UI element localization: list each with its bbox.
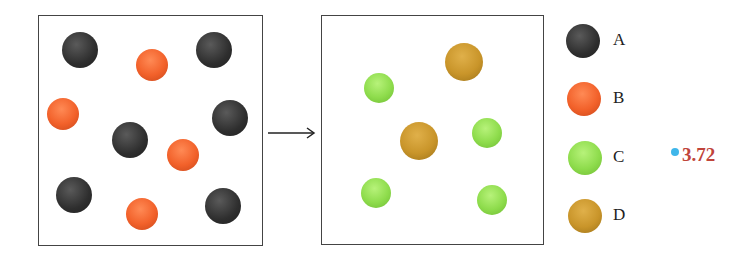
molecule-b [167, 139, 199, 171]
legend-swatch-b [567, 82, 601, 116]
molecule-a [212, 100, 248, 136]
legend-label-b: B [613, 88, 624, 108]
molecule-d [445, 43, 483, 81]
molecule-c [361, 178, 391, 208]
molecule-d [400, 122, 438, 160]
molecule-a [196, 32, 232, 68]
legend-label-a: A [613, 30, 625, 50]
molecule-a [205, 188, 241, 224]
legend-swatch-c [568, 141, 602, 175]
reaction-arrow-icon [268, 127, 316, 139]
molecule-c [472, 118, 502, 148]
molecule-c [364, 73, 394, 103]
molecule-a [112, 122, 148, 158]
legend-label-c: C [613, 147, 624, 167]
molecule-b [126, 198, 158, 230]
molecule-b [47, 98, 79, 130]
molecule-b [136, 49, 168, 81]
legend-label-d: D [613, 205, 625, 225]
legend-swatch-d [568, 199, 602, 233]
marker-dot-icon [671, 148, 679, 156]
molecule-a [56, 177, 92, 213]
molecule-a [62, 32, 98, 68]
legend-swatch-a [566, 24, 600, 58]
molecule-c [477, 185, 507, 215]
annotation-value: 3.72 [682, 144, 715, 166]
